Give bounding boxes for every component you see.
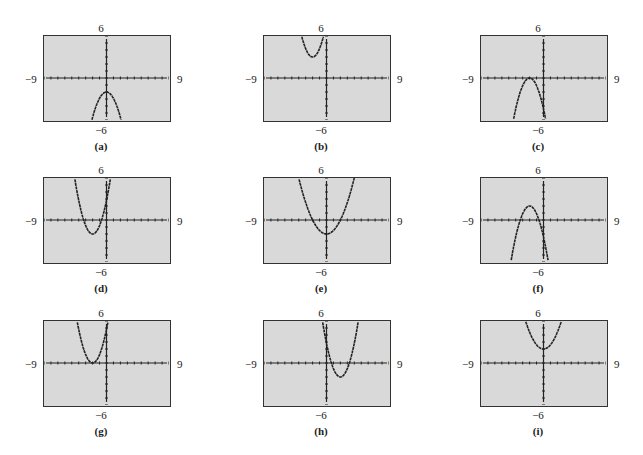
graph-panel-a: 6 −9 9 −6 (a) [30,25,220,165]
xmin-label: −9 [462,216,474,227]
ymin-label: −6 [95,125,107,136]
graph-panel-h: 6 −9 9 −6 (h) [250,310,440,450]
ymax-label: 6 [318,308,324,319]
xmin-label: −9 [245,74,257,85]
parabola-curve [323,322,358,377]
plot-svg [44,36,169,120]
graph-caption: (i) [533,425,543,437]
plot-svg [44,178,169,262]
graph-panel-b: 6 −9 9 −6 (b) [250,25,440,165]
graph-caption: (e) [315,282,327,294]
ymin-label: −6 [95,410,107,421]
ymin-label: −6 [95,267,107,278]
ymax-label: 6 [318,165,324,176]
ymax-label: 6 [535,165,541,176]
xmax-label: 9 [614,74,620,85]
calculator-screen [480,177,608,264]
graph-caption: (f) [533,282,544,294]
graph-caption: (g) [95,425,108,437]
graph-panel-c: 6 −9 9 −6 (c) [467,25,643,165]
plot-svg [264,36,389,120]
ymax-label: 6 [535,23,541,34]
parabola-curve [77,322,108,363]
xmax-label: 9 [397,216,403,227]
parabola-curve [75,179,110,234]
calculator-screen [43,177,171,264]
xmax-label: 9 [397,359,403,370]
graph-panel-d: 6 −9 9 −6 (d) [30,167,220,307]
graph-panel-f: 6 −9 9 −6 (f) [467,167,643,307]
calculator-screen [263,35,391,122]
calculator-screen [43,320,171,407]
xmax-label: 9 [614,216,620,227]
calculator-screen [480,35,608,122]
ymin-label: −6 [532,267,544,278]
calculator-screen [480,320,608,407]
graph-caption: (h) [314,425,327,437]
calculator-screen [263,320,391,407]
plot-svg [264,178,389,262]
graph-panel-i: 6 −9 9 −6 (i) [467,310,643,450]
ymin-label: −6 [315,410,327,421]
parabola-curve [511,206,548,260]
xmin-label: −9 [462,74,474,85]
xmin-label: −9 [245,359,257,370]
ymin-label: −6 [532,125,544,136]
xmin-label: −9 [25,216,37,227]
ymax-label: 6 [98,308,104,319]
graph-caption: (d) [94,282,107,294]
parabola-curve [514,78,546,119]
xmax-label: 9 [397,74,403,85]
ymax-label: 6 [98,23,104,34]
graph-panel-g: 6 −9 9 −6 (g) [30,310,220,450]
parabola-curve [302,37,324,57]
xmin-label: −9 [245,216,257,227]
xmax-label: 9 [614,359,620,370]
xmin-label: −9 [25,74,37,85]
graph-caption: (c) [532,140,544,152]
plot-svg [264,321,389,405]
ymax-label: 6 [318,23,324,34]
xmin-label: −9 [462,359,474,370]
plot-svg [481,36,606,120]
plot-svg [481,178,606,262]
graph-panel-e: 6 −9 9 −6 (e) [250,167,440,307]
ymax-label: 6 [535,308,541,319]
calculator-screen [263,177,391,264]
ymax-label: 6 [98,165,104,176]
graph-caption: (a) [95,140,108,152]
graph-caption: (b) [314,140,327,152]
xmax-label: 9 [177,359,183,370]
ymin-label: −6 [315,125,327,136]
xmax-label: 9 [177,216,183,227]
xmin-label: −9 [25,359,37,370]
plot-svg [481,321,606,405]
plot-svg [44,321,169,405]
ymin-label: −6 [532,410,544,421]
ymin-label: −6 [315,267,327,278]
calculator-screen [43,35,171,122]
xmax-label: 9 [177,74,183,85]
